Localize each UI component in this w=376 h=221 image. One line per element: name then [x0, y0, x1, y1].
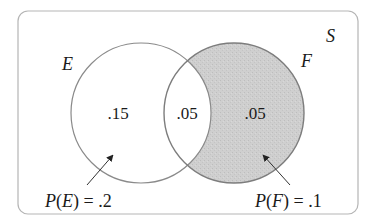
- prob-e-close: ): [73, 191, 84, 212]
- set-e-label: E: [61, 54, 73, 74]
- venn-diagram: S E F .15 .05 .05 P(E) = .2 P(F) = .1: [0, 0, 376, 221]
- set-f-label: F: [300, 51, 313, 71]
- prob-f-func: P: [254, 191, 266, 211]
- prob-e-set: E: [61, 191, 73, 211]
- prob-f-close: ): [283, 191, 294, 212]
- region-e-and-f-value: .05: [176, 104, 197, 123]
- prob-e-func: P: [44, 191, 56, 211]
- prob-f-value: = .1: [294, 191, 322, 211]
- prob-f-label: P(F) = .1: [254, 191, 322, 212]
- universe-label: S: [326, 26, 335, 46]
- region-f-only-value: .05: [244, 104, 265, 123]
- region-e-only-value: .15: [107, 104, 128, 123]
- prob-e-value: = .2: [84, 191, 112, 211]
- prob-e-label: P(E) = .2: [44, 191, 112, 212]
